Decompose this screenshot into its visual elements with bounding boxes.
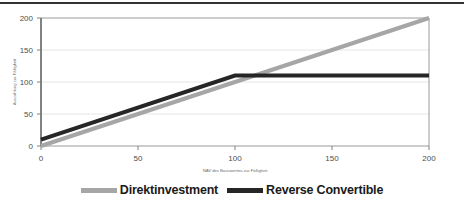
legend-label-reverse-convertible: Reverse Convertible [266, 183, 383, 197]
x-axis-ticks [41, 146, 429, 150]
legend-swatch-direktinvestment [81, 188, 117, 193]
x-tick-label-0: 0 [39, 154, 44, 163]
x-axis-title: NAV des Basiswertes zur Fälligkeit [203, 168, 268, 173]
payoff-line-chart: 0 50 100 150 200 0 50 100 150 200 NAV de… [0, 0, 464, 204]
chart-legend: Direktinvestment Reverse Convertible [0, 180, 464, 200]
y-tick-label-200: 200 [20, 14, 34, 23]
y-tick-label-100: 100 [20, 78, 34, 87]
y-tick-label-50: 50 [24, 110, 33, 119]
series-line-reverse-convertible [41, 76, 429, 140]
chart-figure: 0 50 100 150 200 0 50 100 150 200 NAV de… [0, 0, 464, 204]
x-tick-label-100: 100 [228, 154, 242, 163]
x-tick-label-200: 200 [422, 154, 436, 163]
x-tick-label-150: 150 [325, 154, 339, 163]
legend-item-reverse-convertible[interactable]: Reverse Convertible [227, 183, 383, 197]
legend-label-direktinvestment: Direktinvestment [120, 183, 218, 197]
y-tick-label-0: 0 [29, 142, 34, 151]
y-axis-title: Auszahlung zur Fälligkeit [12, 58, 17, 105]
legend-swatch-reverse-convertible [227, 188, 263, 193]
y-tick-label-150: 150 [20, 46, 34, 55]
x-tick-label-50: 50 [134, 154, 143, 163]
plot-area-container: 0 50 100 150 200 0 50 100 150 200 NAV de… [0, 0, 464, 204]
legend-item-direktinvestment[interactable]: Direktinvestment [81, 183, 218, 197]
